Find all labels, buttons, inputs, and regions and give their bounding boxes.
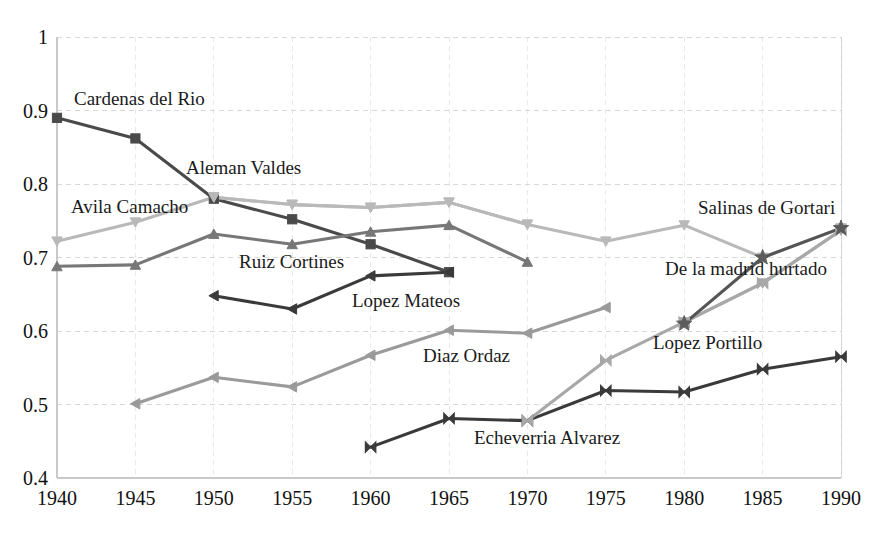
y-tick-label: 0.4 bbox=[23, 467, 48, 489]
x-tick-label: 1980 bbox=[664, 487, 704, 509]
x-tick-label: 1985 bbox=[743, 487, 783, 509]
data-point-marker bbox=[601, 385, 611, 395]
x-tick-label: 1965 bbox=[429, 487, 469, 509]
series-label-aleman-valdes: Aleman Valdes bbox=[186, 157, 301, 179]
series-label-avila-camacho: Avila Camacho bbox=[71, 196, 188, 218]
data-point-marker bbox=[287, 304, 296, 314]
series-label-cardenas-del-rio: Cardenas del Rio bbox=[74, 88, 205, 110]
y-tick-label: 0.8 bbox=[23, 173, 48, 195]
data-point-marker bbox=[288, 215, 297, 224]
y-tick-label: 1 bbox=[38, 26, 48, 48]
y-tick-label: 0.5 bbox=[23, 394, 48, 416]
x-axis-tick-labels: 1940194519501955196019651970197519801985… bbox=[37, 487, 861, 509]
data-point-marker bbox=[52, 113, 61, 122]
series-label-echeverria-alvarez: Echeverria Alvarez bbox=[474, 427, 620, 449]
x-tick-label: 1990 bbox=[821, 487, 861, 509]
data-point-marker bbox=[131, 134, 140, 143]
y-axis-tick-labels: 10.90.80.70.60.50.4 bbox=[23, 26, 48, 489]
series-label-lopez-portillo: Lopez Portillo bbox=[653, 332, 762, 354]
x-tick-label: 1960 bbox=[351, 487, 391, 509]
x-tick-label: 1975 bbox=[586, 487, 626, 509]
series-label-salinas-de-gortari: Salinas de Gortari bbox=[698, 197, 835, 219]
x-tick-label: 1945 bbox=[115, 487, 155, 509]
x-tick-label: 1950 bbox=[194, 487, 234, 509]
x-tick-label: 1955 bbox=[272, 487, 312, 509]
chart-container: 10.90.80.70.60.50.4 19401945195019551960… bbox=[0, 0, 888, 540]
y-tick-label: 0.7 bbox=[23, 247, 48, 269]
y-tick-label: 0.9 bbox=[23, 100, 48, 122]
data-point-marker bbox=[444, 413, 454, 423]
data-point-marker bbox=[366, 350, 375, 360]
series-label-lopez-mateos: Lopez Mateos bbox=[352, 290, 460, 312]
series-label-diaz-ordaz: Diaz Ordaz bbox=[423, 345, 510, 367]
x-tick-label: 1940 bbox=[37, 487, 77, 509]
series-label-de-la-madrid-hurtado: De la madrid hurtado bbox=[665, 258, 827, 280]
y-tick-label: 0.6 bbox=[23, 320, 48, 342]
data-point-marker bbox=[366, 240, 375, 249]
x-tick-label: 1970 bbox=[507, 487, 547, 509]
series-label-ruiz-cortines: Ruiz Cortines bbox=[239, 251, 344, 273]
